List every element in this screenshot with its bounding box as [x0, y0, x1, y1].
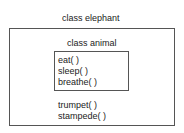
method-breathe: breathe( ) — [58, 77, 97, 87]
method-sleep: sleep( ) — [58, 66, 88, 76]
method-stampede: stampede( ) — [58, 111, 106, 121]
method-eat: eat( ) — [58, 55, 79, 65]
outer-class-title: class elephant — [62, 13, 120, 23]
inner-class-title: class animal — [67, 38, 117, 48]
method-trumpet: trumpet( ) — [58, 100, 97, 110]
